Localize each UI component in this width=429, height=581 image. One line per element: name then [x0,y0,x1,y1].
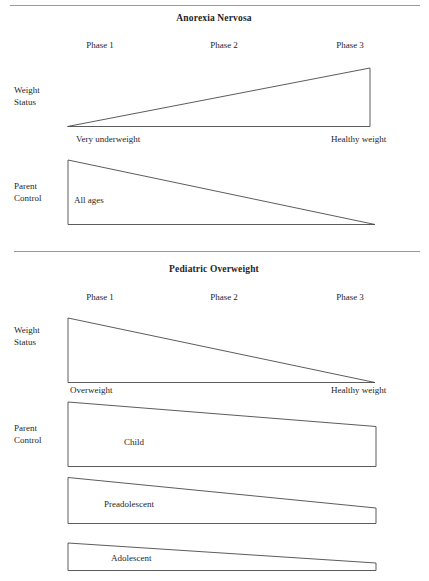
axis-label-parent-control-anorexia-line2: Control [14,192,42,204]
shape-pediatric-weight-status [68,318,375,383]
phase-label-3-pediatric: Phase 3 [336,292,364,304]
phase-label-1-pediatric: Phase 1 [86,292,114,304]
phase-label-3-anorexia: Phase 3 [336,40,364,52]
panel-title-anorexia-nervosa: Anorexia Nervosa [176,13,251,25]
scale-label-left-pediatric: Overweight [70,385,113,397]
axis-label-parent-control-anorexia-line1: Parent [14,180,37,192]
axis-label-weight-status-pediatric-line1: Weight [14,324,40,336]
shape-anorexia-weight-status [68,68,371,127]
figure-shapes [0,0,429,581]
figure-page: Anorexia Nervosa Phase 1 Phase 2 Phase 3… [0,0,429,581]
phase-label-2-pediatric: Phase 2 [210,292,238,304]
panel-title-pediatric-overweight: Pediatric Overweight [169,264,259,276]
axis-label-weight-status-anorexia-line2: Status [14,96,36,108]
axis-label-weight-status-pediatric-line2: Status [14,336,36,348]
shape-label-adolescent: Adolescent [111,553,152,565]
scale-label-right-anorexia: Healthy weight [331,134,386,146]
scale-label-left-anorexia: Very underweight [76,134,140,146]
phase-label-1-anorexia: Phase 1 [86,40,114,52]
shape-label-all-ages: All ages [74,195,104,207]
shape-label-child: Child [124,437,144,449]
scale-label-right-pediatric: Healthy weight [331,385,386,397]
phase-label-2-anorexia: Phase 2 [210,40,238,52]
axis-label-parent-control-pediatric-line1: Parent [14,422,37,434]
shape-anorexia-parent-control [68,160,375,225]
axis-label-parent-control-pediatric-line2: Control [14,434,42,446]
shape-label-preadolescent: Preadolescent [104,499,154,511]
axis-label-weight-status-anorexia-line1: Weight [14,84,40,96]
shape-pediatric-parent-control-child [68,402,376,467]
